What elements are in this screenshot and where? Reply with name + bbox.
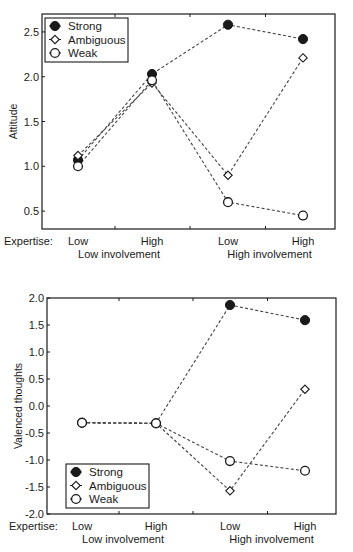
- weak-open-circle-marker: [301, 466, 310, 475]
- expertise-axis-label: Expertise:: [9, 520, 58, 532]
- y-axis-title: Valenced thoughts: [12, 363, 24, 449]
- y-tick-label: -2.0: [25, 508, 44, 520]
- involvement-group-label: Low involvement: [82, 533, 164, 545]
- ambiguous-open-diamond-marker: [299, 54, 307, 62]
- x-category-label: High: [292, 235, 315, 247]
- x-category-label: Low: [68, 235, 88, 247]
- attitude-chart: 0.51.01.52.02.5AttitudeExpertise:LowHigh…: [0, 0, 353, 270]
- legend-label-ambiguous: Ambiguous: [68, 34, 126, 46]
- y-tick-label: 2.5: [24, 26, 39, 38]
- ambiguous-open-diamond-marker: [301, 385, 309, 393]
- legend-label-strong: Strong: [68, 20, 102, 32]
- valenced-thoughts-chart-svg: -2.0-1.5-1.0-0.50.00.51.01.52.0Valenced …: [0, 283, 353, 552]
- markers-strong: [77, 300, 309, 427]
- x-category-label: Low: [72, 520, 92, 532]
- attitude-chart-svg: 0.51.01.52.02.5AttitudeExpertise:LowHigh…: [0, 0, 353, 270]
- series-weak: [78, 80, 303, 215]
- x-category-label: High: [294, 520, 317, 532]
- legend-label-weak: Weak: [89, 493, 118, 505]
- y-tick-label: 0.5: [29, 373, 44, 385]
- y-tick-label: 1.5: [24, 116, 39, 128]
- strong-filled-circle-marker: [225, 300, 234, 309]
- weak-open-circle-marker: [152, 419, 161, 428]
- legend-label-weak: Weak: [68, 47, 97, 59]
- series-line: [82, 305, 305, 423]
- y-tick-label: 1.0: [29, 346, 44, 358]
- weak-open-circle-marker: [74, 162, 83, 171]
- series-strong: [82, 305, 305, 423]
- involvement-group-label: High involvement: [227, 248, 311, 260]
- x-category-label: High: [145, 520, 168, 532]
- legend-strong-filled-circle-marker: [50, 21, 59, 30]
- markers-weak: [74, 76, 308, 220]
- x-category-label: Low: [218, 235, 238, 247]
- series-ambiguous: [78, 58, 303, 175]
- y-tick-label: -1.5: [25, 481, 44, 493]
- valenced-thoughts-chart: -2.0-1.5-1.0-0.50.00.51.01.52.0Valenced …: [0, 283, 353, 552]
- y-tick-label: 2.0: [24, 71, 39, 83]
- series-line: [78, 58, 303, 175]
- y-tick-label: 0.5: [24, 205, 39, 217]
- legend-label-ambiguous: Ambiguous: [89, 480, 147, 492]
- legend: StrongAmbiguousWeak: [45, 18, 128, 62]
- ambiguous-open-diamond-marker: [226, 487, 234, 495]
- strong-filled-circle-marker: [298, 34, 307, 43]
- expertise-axis-label: Expertise:: [4, 235, 53, 247]
- weak-open-circle-marker: [148, 76, 157, 85]
- legend-strong-filled-circle-marker: [71, 467, 80, 476]
- weak-open-circle-marker: [78, 418, 87, 427]
- markers-ambiguous: [74, 54, 307, 180]
- y-tick-label: -0.5: [25, 427, 44, 439]
- involvement-group-label: High involvement: [229, 533, 313, 545]
- legend-weak-open-circle-marker: [72, 495, 81, 504]
- weak-open-circle-marker: [224, 198, 233, 207]
- y-axis-title: Attitude: [7, 104, 19, 140]
- strong-filled-circle-marker: [300, 316, 309, 325]
- involvement-group-label: Low involvement: [78, 248, 160, 260]
- x-category-label: Low: [220, 520, 240, 532]
- y-tick-label: 1.0: [24, 160, 39, 172]
- legend-weak-open-circle-marker: [51, 49, 60, 58]
- y-tick-label: 1.5: [29, 319, 44, 331]
- series-line: [78, 80, 303, 215]
- weak-open-circle-marker: [299, 211, 308, 220]
- legend-label-strong: Strong: [89, 466, 123, 478]
- y-tick-label: 0.0: [29, 400, 44, 412]
- y-tick-label: 2.0: [29, 292, 44, 304]
- legend: StrongAmbiguousWeak: [66, 464, 149, 508]
- weak-open-circle-marker: [226, 457, 235, 466]
- x-category-label: High: [141, 235, 164, 247]
- strong-filled-circle-marker: [223, 20, 232, 29]
- y-tick-label: -1.0: [25, 454, 44, 466]
